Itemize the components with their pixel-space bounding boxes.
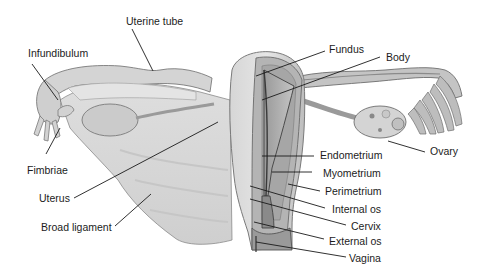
label-ovary: Ovary (430, 145, 459, 157)
label-uterus: Uterus (39, 192, 70, 204)
label-broad-ligament: Broad ligament (41, 221, 112, 233)
label-vagina: Vagina (349, 252, 381, 264)
label-external-os: External os (329, 235, 382, 247)
label-perimetrium: Perimetrium (325, 185, 382, 197)
label-body: Body (386, 51, 411, 63)
uterus-anatomy-diagram: Uterine tube Infundibulum Fimbriae Uteru… (0, 0, 484, 276)
label-fundus: Fundus (329, 43, 364, 55)
label-uterine-tube: Uterine tube (126, 15, 183, 27)
label-endometrium: Endometrium (320, 149, 383, 161)
label-internal-os: Internal os (332, 203, 381, 215)
left-ovary-shape (82, 104, 138, 136)
label-fimbriae: Fimbriae (27, 164, 68, 176)
label-myometrium: Myometrium (323, 167, 381, 179)
label-cervix: Cervix (351, 220, 382, 232)
label-infundibulum: Infundibulum (28, 47, 88, 59)
